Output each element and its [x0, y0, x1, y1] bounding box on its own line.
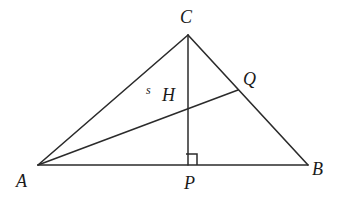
vertex-label-C: C [180, 8, 192, 26]
segment-cevian-AQ [38, 90, 238, 165]
geometry-figure: A B C P Q H s [0, 0, 338, 204]
vertex-label-H: H [162, 86, 175, 104]
vertex-label-B: B [312, 160, 323, 178]
vertex-label-P: P [184, 174, 195, 192]
vertex-label-Q: Q [243, 70, 256, 88]
segment-side-CB [188, 35, 308, 165]
segment-label-s: s [146, 84, 151, 96]
internal-segments [38, 35, 238, 165]
vertex-label-A: A [16, 172, 27, 190]
